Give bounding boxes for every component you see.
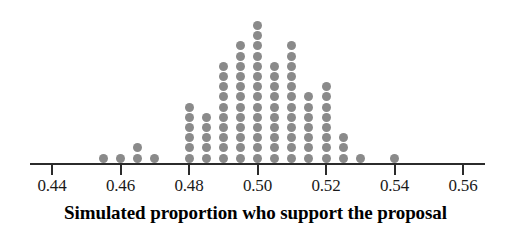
data-dot	[339, 154, 348, 163]
x-tick-label-0.48: 0.48	[159, 176, 219, 196]
data-dot	[253, 154, 262, 163]
dotplot-figure: 0.440.460.480.500.520.540.56 Simulated p…	[0, 0, 511, 243]
data-dot	[253, 113, 262, 122]
data-dot	[322, 103, 331, 112]
data-dot	[304, 113, 313, 122]
data-dot	[304, 123, 313, 132]
data-dot	[219, 92, 228, 101]
x-tick-0.46	[120, 165, 122, 175]
x-tick-label-0.46: 0.46	[91, 176, 151, 196]
data-dot	[304, 133, 313, 142]
data-dot	[236, 72, 245, 81]
data-dot	[287, 123, 296, 132]
x-tick-0.56	[462, 165, 464, 175]
data-dot	[185, 113, 194, 122]
data-dot	[253, 62, 262, 71]
data-dot	[390, 154, 399, 163]
data-dot	[185, 154, 194, 163]
data-dot	[287, 92, 296, 101]
data-dot	[287, 154, 296, 163]
data-dot	[133, 154, 142, 163]
data-dot	[287, 41, 296, 50]
data-dot	[150, 154, 159, 163]
data-dot	[287, 52, 296, 61]
data-dot	[304, 143, 313, 152]
data-dot	[304, 154, 313, 163]
x-tick-label-0.54: 0.54	[365, 176, 425, 196]
data-dot	[253, 72, 262, 81]
data-dot	[185, 103, 194, 112]
data-dot	[253, 123, 262, 132]
data-dot	[185, 143, 194, 152]
data-dot	[202, 123, 211, 132]
data-dot	[219, 82, 228, 91]
data-dot	[219, 103, 228, 112]
data-dot	[270, 123, 279, 132]
data-dot	[219, 113, 228, 122]
data-dot	[202, 154, 211, 163]
data-dot	[322, 154, 331, 163]
data-dot	[253, 82, 262, 91]
data-dot	[287, 103, 296, 112]
data-dot	[270, 82, 279, 91]
data-dot	[236, 143, 245, 152]
data-dot	[339, 133, 348, 142]
x-tick-label-0.44: 0.44	[22, 176, 82, 196]
data-dot	[236, 52, 245, 61]
x-axis-title: Simulated proportion who support the pro…	[0, 202, 511, 224]
data-dot	[356, 154, 365, 163]
data-dot	[253, 103, 262, 112]
data-dot	[253, 21, 262, 30]
data-dot	[202, 143, 211, 152]
data-dot	[270, 154, 279, 163]
data-dot	[322, 123, 331, 132]
data-dot	[253, 133, 262, 142]
data-dot	[185, 133, 194, 142]
data-dot	[236, 113, 245, 122]
x-tick-0.48	[188, 165, 190, 175]
data-dot	[270, 62, 279, 71]
data-dot	[236, 103, 245, 112]
data-dot	[236, 123, 245, 132]
data-dot	[236, 92, 245, 101]
data-dot	[253, 41, 262, 50]
data-dot	[270, 92, 279, 101]
data-dot	[236, 154, 245, 163]
data-dot	[219, 154, 228, 163]
data-dot	[270, 113, 279, 122]
data-dot	[287, 133, 296, 142]
data-dot	[287, 143, 296, 152]
data-dot	[202, 113, 211, 122]
data-dot	[116, 154, 125, 163]
data-dot	[219, 133, 228, 142]
x-tick-0.52	[325, 165, 327, 175]
data-dot	[253, 31, 262, 40]
data-dot	[219, 62, 228, 71]
data-dot	[99, 154, 108, 163]
data-dot	[322, 133, 331, 142]
data-dot	[236, 62, 245, 71]
data-dot	[270, 103, 279, 112]
data-dot	[253, 143, 262, 152]
data-dot	[287, 72, 296, 81]
data-dot	[236, 41, 245, 50]
data-dot	[322, 113, 331, 122]
data-dot	[339, 143, 348, 152]
data-dot	[287, 62, 296, 71]
x-tick-label-0.50: 0.50	[228, 176, 288, 196]
data-dot	[253, 52, 262, 61]
x-tick-0.54	[394, 165, 396, 175]
data-dot	[202, 133, 211, 142]
data-dot	[236, 82, 245, 91]
data-dot	[219, 123, 228, 132]
data-dot	[304, 103, 313, 112]
x-tick-label-0.56: 0.56	[433, 176, 493, 196]
data-dot	[270, 143, 279, 152]
data-dot	[287, 82, 296, 91]
data-dot	[322, 92, 331, 101]
plot-area	[0, 0, 511, 180]
data-dot	[270, 72, 279, 81]
data-dot	[270, 133, 279, 142]
x-tick-label-0.52: 0.52	[296, 176, 356, 196]
data-dot	[304, 92, 313, 101]
